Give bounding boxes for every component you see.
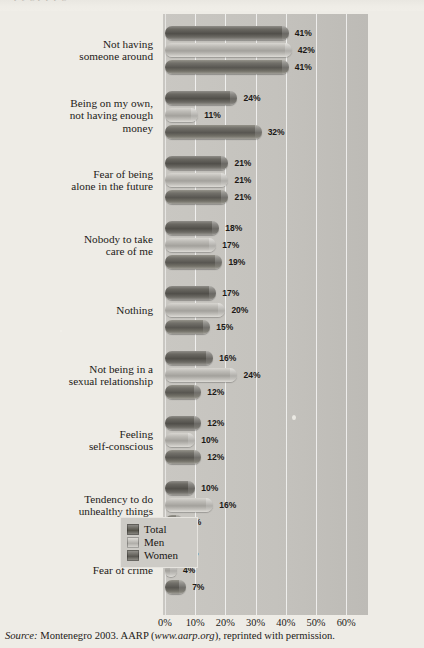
legend-item-total[interactable]: Total [127,523,190,536]
bar-cap [179,580,186,594]
category-label-line: Feeling [3,428,153,441]
bar-row: 41% [163,26,368,40]
bar-cap [215,255,222,269]
total-swatch-icon [127,524,139,535]
bar-value-label: 10% [201,481,218,495]
bar-cap [255,125,262,139]
bar-cap [218,303,225,317]
bar-value-label: 21% [234,173,251,187]
bar-value-label: 18% [225,221,242,235]
bar-row: 18% [163,221,368,235]
bar-men[interactable] [165,303,225,317]
bar-total[interactable] [165,286,216,300]
bar-row: 15% [163,320,368,334]
bar-row: 21% [163,173,368,187]
bar-men[interactable] [165,498,213,512]
bar-cap [282,60,289,74]
bar-value-label: 24% [243,91,260,105]
category-label-line: Fear of being [3,168,153,181]
legend-item-women[interactable]: Women [127,549,190,562]
category-label-line: Not being in a [3,363,153,376]
bar-women[interactable] [165,320,210,334]
bar-row: 32% [163,125,368,139]
bar-total[interactable] [165,481,195,495]
category-label-line: care of me [3,245,153,258]
category-label-line: alone in the future [3,180,153,193]
bar-group: 41%42%41% [163,26,368,77]
bar-group: 18%17%19% [163,221,368,272]
bar-women[interactable] [165,450,201,464]
bar-women[interactable] [165,255,222,269]
bar-value-label: 16% [219,351,236,365]
bar-men[interactable] [165,173,228,187]
bar-men[interactable] [165,238,216,252]
bar-row: 12% [163,385,368,399]
bar-cap [194,385,201,399]
bar-total[interactable] [165,416,201,430]
bar-cap [206,351,213,365]
bar-value-label: 19% [228,255,245,269]
bar-women[interactable] [165,60,289,74]
bar-men[interactable] [165,108,198,122]
bar-row: 16% [163,351,368,365]
x-tick-50: 50% [306,617,325,628]
bar-women[interactable] [165,580,186,594]
bar-total[interactable] [165,26,289,40]
bar-cap [206,498,213,512]
bar-women[interactable] [165,385,201,399]
category-label-line: Not having [3,38,153,51]
bar-men[interactable] [165,368,237,382]
women-swatch-icon [127,550,139,561]
bar-value-label: 41% [295,26,312,40]
bar-men[interactable] [165,433,195,447]
bar-value-label: 17% [222,286,239,300]
bar-value-label: 17% [222,238,239,252]
legend-item-men[interactable]: Men [127,536,190,549]
bar-total[interactable] [165,156,228,170]
category-label: Being on my own,not having enoughmoney [3,97,153,135]
bar-total[interactable] [165,351,213,365]
bar-cap [230,368,237,382]
x-tick-60: 60% [337,617,356,628]
category-label: Nothing [3,304,153,317]
scan-speckle [60,330,62,332]
category-label: Fear of beingalone in the future [3,168,153,193]
category-label: Not havingsomeone around [3,38,153,63]
bar-cap [212,221,219,235]
x-tick-20: 20% [216,617,235,628]
bar-cap [209,286,216,300]
men-swatch-icon [127,537,139,548]
bar-value-label: 12% [207,385,224,399]
bar-group: 21%21%21% [163,156,368,207]
x-axis-tick-labels: 0%10%20%30%40%50%60% [163,617,378,631]
bar-value-label: 21% [234,190,251,204]
scan-speckle [292,415,296,420]
bar-row: 21% [163,190,368,204]
bar-women[interactable] [165,125,262,139]
bar-group: 12%10%12% [163,416,368,467]
bar-total[interactable] [165,221,219,235]
bar-cap [209,238,216,252]
bar-cap [191,108,198,122]
category-label-line: not having enough [3,109,153,122]
legend-label-men: Men [144,536,164,549]
bar-row: 10% [163,481,368,495]
x-tick-40: 40% [276,617,295,628]
page-top-cutoff-strip: p y g p p p g [0,0,424,11]
bar-row: 7% [163,580,368,594]
bar-value-label: 32% [268,125,285,139]
bar-value-label: 11% [204,108,221,122]
bar-cap [285,43,292,57]
bar-total[interactable] [165,91,237,105]
bar-women[interactable] [165,190,228,204]
bar-value-label: 12% [207,450,224,464]
category-label-line: Nothing [3,304,153,317]
x-tick-0: 0% [158,617,172,628]
bar-men[interactable] [165,43,292,57]
source-note: Source: Montenegro 2003. AARP (www.aarp.… [5,630,419,641]
bar-row: 17% [163,238,368,252]
bar-row: 20% [163,303,368,317]
bar-row: 42% [163,43,368,57]
bar-cap [221,173,228,187]
source-prefix: Source: [5,630,38,641]
